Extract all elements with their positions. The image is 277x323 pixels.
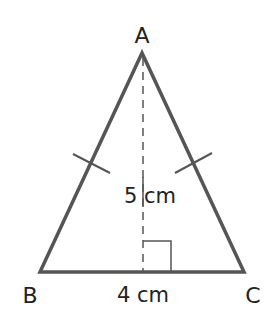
equal-side-tick-ac (175, 153, 212, 173)
equal-side-tick-ab (73, 154, 110, 173)
base-length-label: 4 cm (117, 283, 169, 307)
vertex-label-c: C (245, 283, 260, 308)
triangle-diagram: A B C 4 cm 5 cm (0, 0, 277, 323)
right-angle-marker (143, 241, 171, 272)
vertex-label-a: A (134, 23, 149, 48)
vertex-label-b: B (22, 283, 37, 308)
triangle-abc (40, 53, 244, 272)
height-length-label: 5 cm (124, 184, 176, 208)
